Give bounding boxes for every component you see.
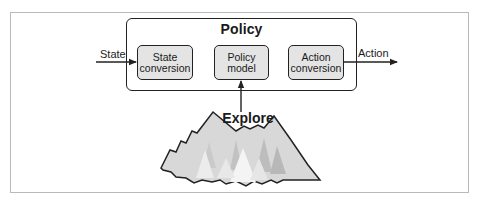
policy-model-line1: Policy — [227, 52, 256, 63]
policy-title: Policy — [126, 21, 357, 37]
action-label: Action — [358, 47, 389, 59]
policy-model-line2: model — [227, 63, 256, 74]
state-conversion-box: State conversion — [137, 45, 193, 80]
action-conversion-line2: conversion — [291, 63, 342, 74]
state-label: State — [100, 48, 126, 60]
state-conversion-line1: State — [140, 52, 191, 63]
explore-label: Explore — [218, 110, 278, 126]
policy-model-box: Policy model — [214, 45, 269, 80]
state-conversion-line2: conversion — [140, 63, 191, 74]
action-conversion-line1: Action — [291, 52, 342, 63]
action-conversion-box: Action conversion — [288, 45, 344, 80]
